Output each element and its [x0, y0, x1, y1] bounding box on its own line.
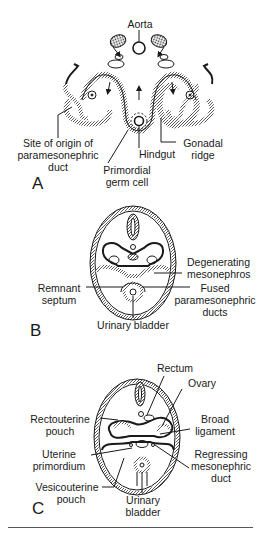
label-hindgut: Hindgut — [132, 148, 182, 160]
label-ovary: Ovary — [180, 377, 224, 389]
label-site-origin-line3: duct — [8, 161, 108, 173]
label-uterine-line1: Uterine — [26, 448, 92, 460]
panel-letter-b: B — [30, 322, 41, 340]
label-site-origin-line1: Site of origin of — [8, 137, 108, 149]
label-broad-line1: Broad — [190, 413, 240, 425]
label-urinary-bladder-b: Urinary bladder — [90, 319, 176, 331]
bottom-rule — [8, 527, 253, 528]
label-vesicouterine-line1: Vesicouterine — [32, 481, 102, 493]
label-fused-line3: ducts — [172, 306, 258, 318]
label-regressing-line3: duct — [186, 472, 256, 484]
label-rectouterine-line1: Rectouterine — [20, 413, 100, 425]
label-fused-line2: paramesonephric — [172, 294, 258, 306]
label-urinary-c-line2: bladder — [118, 506, 168, 518]
label-gonadal-ridge-line2: ridge — [178, 149, 228, 161]
aorta-shape — [133, 42, 145, 54]
label-aorta: Aorta — [120, 18, 160, 30]
label-rectouterine-line2: pouch — [20, 425, 100, 437]
label-regressing-line1: Regressing — [186, 448, 256, 460]
label-broad-line2: ligament — [190, 425, 240, 437]
label-primordial-line1: Primordial — [100, 164, 154, 176]
label-primordial-line2: germ cell — [100, 176, 154, 188]
label-degenerating-line2: mesonephros — [187, 268, 251, 280]
label-rectum: Rectum — [150, 362, 200, 374]
panel-letter-c: C — [32, 500, 44, 518]
label-gonadal-ridge-line1: Gonadal — [178, 137, 228, 149]
label-fused-line1: Fused — [172, 282, 258, 294]
label-remnant-line1: Remnant — [34, 282, 84, 294]
label-urinary-c-line1: Urinary — [118, 494, 168, 506]
label-degenerating-line1: Degenerating — [187, 256, 250, 268]
label-remnant-line2: septum — [34, 294, 84, 306]
label-regressing-line2: mesonephric — [186, 460, 256, 472]
panel-letter-a: A — [32, 175, 43, 193]
label-uterine-line2: primordium — [26, 460, 92, 472]
panel-c-drawing — [91, 376, 190, 495]
label-site-origin-line2: paramesonephric — [8, 149, 108, 161]
label-vesicouterine-line2: pouch — [46, 493, 96, 505]
